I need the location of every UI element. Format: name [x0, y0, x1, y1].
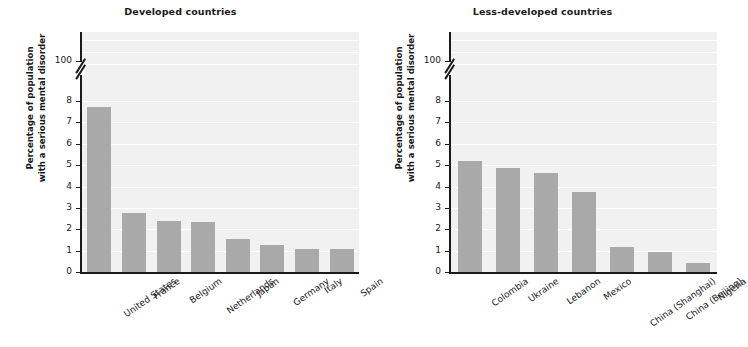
y-axis-tick-label: 7 [401, 116, 441, 126]
bar [572, 192, 596, 272]
panel-developed-countries: Developed countries Percentage of popula… [0, 0, 361, 347]
x-axis-category-label: Lebanon [565, 276, 602, 306]
y-axis-tick-label: 6 [32, 138, 72, 148]
y-axis-title-line1: Percentage of population [25, 13, 37, 203]
y-axis-title: Percentage of population with a serious … [394, 13, 420, 203]
bar [226, 239, 250, 272]
axis-break-icon [72, 58, 90, 80]
y-axis-tick [76, 61, 80, 62]
y-axis-title: Percentage of population with a serious … [25, 13, 51, 203]
y-axis-tick [76, 144, 80, 145]
y-axis-tick [445, 272, 449, 273]
y-axis-tick-label: 6 [401, 138, 441, 148]
y-axis-tick [76, 272, 80, 273]
y-axis-tick-label: 2 [32, 223, 72, 233]
x-axis-category-label: Colombia [490, 276, 530, 308]
y-axis-tick-label: 4 [32, 181, 72, 191]
bars-container [82, 32, 359, 272]
y-axis-tick [445, 165, 449, 166]
x-axis-category-label: Ukraine [526, 276, 560, 304]
x-axis-line [449, 272, 717, 274]
bars-container [451, 32, 717, 272]
y-axis-tick-label: 1 [32, 245, 72, 255]
panel-title: Developed countries [0, 6, 361, 17]
y-axis-tick [76, 101, 80, 102]
bar [534, 173, 558, 272]
y-axis-tick-label: 8 [401, 95, 441, 105]
y-axis-tick-label: 0 [401, 266, 441, 276]
y-axis-tick [76, 165, 80, 166]
y-axis-tick-label: 4 [401, 181, 441, 191]
bar [648, 252, 672, 272]
y-axis-tick-label: 1 [401, 245, 441, 255]
y-axis-tick [76, 122, 80, 123]
bar [610, 247, 634, 272]
y-axis-tick [445, 229, 449, 230]
y-axis-tick-label: 2 [401, 223, 441, 233]
y-axis-title-line1: Percentage of population [394, 13, 406, 203]
y-axis-tick [445, 208, 449, 209]
y-axis-tick [445, 251, 449, 252]
y-axis-tick-label: 3 [32, 202, 72, 212]
y-axis-title-line2: with a serious mental disorder [406, 13, 418, 203]
y-axis-tick [76, 229, 80, 230]
panel-less-developed-countries: Less-developed countries Percentage of p… [362, 0, 723, 347]
y-axis-tick-label: 8 [32, 95, 72, 105]
bar [122, 213, 146, 272]
bar [191, 222, 215, 272]
y-axis-tick-label: 3 [401, 202, 441, 212]
y-axis-tick-label: 0 [32, 266, 72, 276]
bar [496, 168, 520, 272]
y-axis-tick [445, 122, 449, 123]
y-axis-tick-label: 5 [32, 159, 72, 169]
bar [87, 107, 111, 272]
y-axis-tick [445, 101, 449, 102]
y-axis-tick [76, 208, 80, 209]
bar [686, 263, 710, 272]
y-axis-break-label: 100 [401, 55, 441, 65]
y-axis-tick [76, 187, 80, 188]
y-axis-break-label: 100 [32, 55, 72, 65]
y-axis-tick-label: 7 [32, 116, 72, 126]
y-axis-title-line2: with a serious mental disorder [37, 13, 49, 203]
bar [260, 245, 284, 272]
y-axis-tick [445, 61, 449, 62]
x-axis-category-label: Mexico [602, 276, 633, 302]
bar [295, 249, 319, 273]
y-axis-tick [445, 187, 449, 188]
axis-break-icon [441, 58, 459, 80]
bar [330, 249, 354, 273]
bar [458, 161, 482, 272]
y-axis-tick [76, 251, 80, 252]
y-axis-tick [445, 144, 449, 145]
y-axis-tick-label: 5 [401, 159, 441, 169]
x-axis-category-label: Belgium [187, 276, 223, 305]
x-axis-line [80, 272, 359, 274]
bar [157, 221, 181, 272]
